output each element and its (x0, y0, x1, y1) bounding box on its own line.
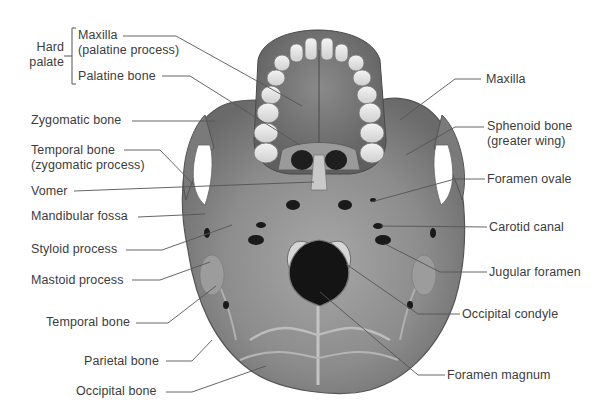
label-text: Styloid process (31, 242, 117, 257)
label-text: Foramen magnum (447, 368, 551, 383)
label-text-sub: (zygomatic process) (31, 158, 145, 173)
hard-palate-label-line2: palate (28, 55, 64, 70)
label-temporal-bone-zygomatic-process: Temporal bone (zygomatic process) (31, 143, 145, 173)
label-occipital-condyle: Occipital condyle (462, 307, 558, 322)
label-text: Temporal bone (46, 315, 130, 330)
label-temporal-bone: Temporal bone (46, 315, 130, 330)
label-text: Parietal bone (84, 354, 159, 369)
label-foramen-ovale: Foramen ovale (487, 172, 572, 187)
label-text: Mandibular fossa (31, 209, 128, 224)
label-mastoid-process: Mastoid process (31, 273, 124, 288)
mastoid-right (412, 255, 436, 295)
label-text-sub: (palatine process) (78, 43, 179, 58)
label-text: Zygomatic bone (31, 113, 121, 128)
label-text: Maxilla (486, 72, 526, 87)
label-sphenoid-bone-greater-wing: Sphenoid bone (greater wing) (487, 119, 572, 149)
label-maxilla: Maxilla (486, 72, 526, 87)
label-text: Occipital bone (76, 384, 157, 399)
label-mandibular-fossa: Mandibular fossa (31, 209, 128, 224)
hard-palate-bracket (64, 28, 76, 84)
hard-palate-label: Hard palate (28, 40, 64, 70)
label-vomer: Vomer (31, 184, 68, 199)
label-text: Occipital condyle (462, 307, 558, 322)
label-text: Mastoid process (31, 273, 124, 288)
label-text: Palatine bone (78, 69, 156, 84)
label-text: Foramen ovale (487, 172, 572, 187)
label-text-sub: (greater wing) (487, 134, 572, 149)
label-text: Jugular foramen (489, 265, 581, 280)
label-foramen-magnum: Foramen magnum (447, 368, 551, 383)
label-zygomatic-bone: Zygomatic bone (31, 113, 121, 128)
label-text: Sphenoid bone (487, 119, 572, 134)
label-text: Temporal bone (31, 143, 145, 158)
label-carotid-canal: Carotid canal (489, 220, 564, 235)
hard-palate-label-line1: Hard (28, 40, 64, 55)
label-text: Carotid canal (489, 220, 564, 235)
skull-inferior-view-diagram: Hard palate Maxilla (palatine process) P… (0, 0, 611, 420)
label-palatine-bone: Palatine bone (78, 69, 156, 84)
label-text: Maxilla (78, 28, 179, 43)
label-parietal-bone: Parietal bone (84, 354, 159, 369)
label-occipital-bone: Occipital bone (76, 384, 157, 399)
label-text: Vomer (31, 184, 68, 199)
label-jugular-foramen: Jugular foramen (489, 265, 581, 280)
label-styloid-process: Styloid process (31, 242, 117, 257)
label-maxilla-palatine-process: Maxilla (palatine process) (78, 28, 179, 58)
